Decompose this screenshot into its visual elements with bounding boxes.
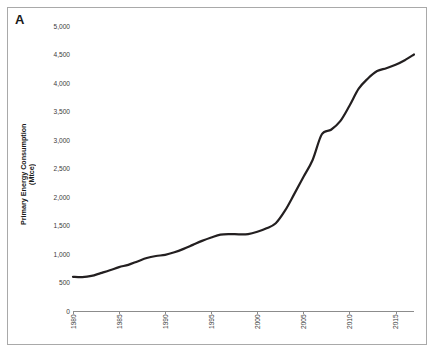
x-axis-tick-label: 1985 [115, 314, 124, 340]
x-axis-tick-label: 1995 [207, 314, 216, 340]
x-axis-tick-label: 1990 [161, 314, 170, 340]
x-axis-tick-label: 2005 [299, 314, 308, 340]
x-axis-tick-labels: 19801985199019952000200520102015 [0, 0, 436, 352]
x-axis-tick-label: 2015 [391, 314, 400, 340]
x-axis-tick-label: 1980 [69, 314, 78, 340]
x-axis-tick-label: 2010 [345, 314, 354, 340]
x-axis-tick-label: 2000 [253, 314, 262, 340]
figure-root: A Primary Energy Consumption(Mtce) 5,000… [0, 0, 436, 352]
